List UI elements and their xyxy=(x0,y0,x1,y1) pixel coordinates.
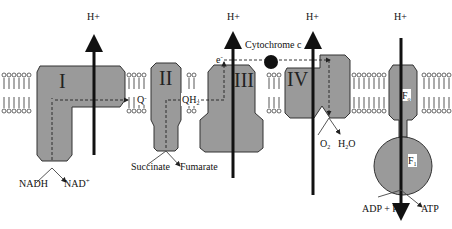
complex-ii-label: II xyxy=(159,67,172,89)
lipid-head xyxy=(142,109,146,113)
lipid-head xyxy=(7,73,11,77)
lipid-head xyxy=(362,109,366,113)
lipid-head xyxy=(422,109,426,113)
h2o-label: H2O xyxy=(338,138,355,150)
lipid-head xyxy=(442,109,446,113)
lipid-head xyxy=(267,109,271,113)
lipid-head xyxy=(22,109,26,113)
lipid-head xyxy=(437,73,441,77)
lipid-head xyxy=(127,73,131,77)
lipid-head xyxy=(132,109,136,113)
lipid-head xyxy=(382,109,386,113)
complex-f1 xyxy=(374,137,432,195)
lipid-head xyxy=(427,109,431,113)
succinate-label: Succinate xyxy=(131,161,170,172)
lipid-head xyxy=(432,73,436,77)
lipid-head xyxy=(187,109,191,113)
lipid-head xyxy=(17,109,21,113)
lipid-head xyxy=(132,73,136,77)
o2-label: O2 xyxy=(320,138,330,150)
lipid-head xyxy=(382,73,386,77)
lipid-head xyxy=(427,73,431,77)
lipid-head xyxy=(192,73,196,77)
lipid-head xyxy=(367,73,371,77)
lipid-head xyxy=(7,109,11,113)
lipid-head xyxy=(447,73,451,77)
lipid-head xyxy=(367,109,371,113)
complex-iii-label: III xyxy=(234,69,254,91)
cytochrome-c-label: Cytochrome c xyxy=(245,39,302,50)
proton-label-iii: H+ xyxy=(227,11,240,22)
lipid-head xyxy=(17,73,21,77)
lipid-head xyxy=(272,109,276,113)
lipid-head xyxy=(432,109,436,113)
nad-label: NAD+ xyxy=(64,177,90,189)
lipid-head xyxy=(12,73,16,77)
lipid-head xyxy=(127,109,131,113)
lipid-head xyxy=(137,73,141,77)
lipid-head xyxy=(272,73,276,77)
lipid-head xyxy=(442,73,446,77)
lipid-head xyxy=(2,73,6,77)
electron-label: e- xyxy=(216,53,223,65)
lipid-head xyxy=(352,109,356,113)
lipid-head xyxy=(372,73,376,77)
lipid-head xyxy=(447,109,451,113)
lipid-head xyxy=(2,109,6,113)
lipid-head xyxy=(142,73,146,77)
proton-label-iv: H+ xyxy=(306,11,319,22)
lipid-head xyxy=(362,73,366,77)
cytochrome-c xyxy=(264,55,278,69)
lipid-head xyxy=(137,109,141,113)
lipid-head xyxy=(352,73,356,77)
atp-label: ATP xyxy=(421,203,439,214)
lipid-head xyxy=(27,73,31,77)
complex-i-label: I xyxy=(59,70,66,92)
lipid-head xyxy=(277,109,281,113)
lipid-head xyxy=(372,109,376,113)
lipid-head xyxy=(192,109,196,113)
lipid-head xyxy=(27,109,31,113)
lipid-head xyxy=(377,73,381,77)
complex-i xyxy=(37,66,125,161)
lipid-head xyxy=(277,73,281,77)
fumarate-label: Fumarate xyxy=(180,161,218,172)
lipid-head xyxy=(187,73,191,77)
nadh-label: NADH xyxy=(19,178,48,189)
complex-iv-label: IV xyxy=(287,68,309,90)
lipid-head xyxy=(12,109,16,113)
etc-diagram: I II III IV Fo F1 H+ H+ H+ H+ Cytochrome… xyxy=(0,0,452,229)
lipid-head xyxy=(267,73,271,77)
lipid-head xyxy=(377,109,381,113)
proton-label-atp-synthase: H+ xyxy=(394,11,407,22)
o2-arrow xyxy=(318,118,340,135)
lipid-head xyxy=(422,73,426,77)
lipid-head xyxy=(22,73,26,77)
adp-label: ADP + Pi xyxy=(362,203,400,215)
lipid-head xyxy=(357,73,361,77)
lipid-head xyxy=(357,109,361,113)
proton-label-i: H+ xyxy=(87,11,100,22)
lipid-head xyxy=(437,109,441,113)
